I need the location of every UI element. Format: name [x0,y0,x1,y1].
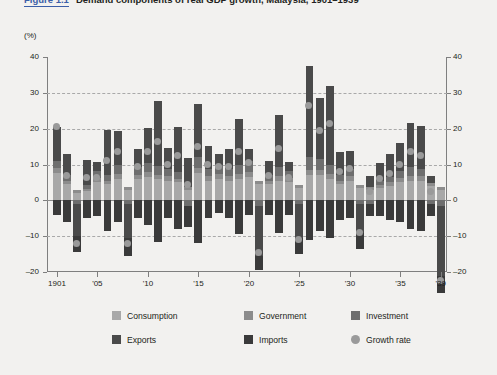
bar-group[interactable] [306,57,314,272]
bar-segment-imports [285,200,293,214]
bar-segment-imports [104,200,112,230]
legend-item[interactable]: Consumption [112,305,178,319]
bar-segment-government [356,185,364,188]
x-tick-label: '05 [82,279,112,288]
x-tick [198,272,199,277]
bar-group[interactable] [265,57,273,272]
bar-group[interactable] [144,57,152,272]
bar-group[interactable] [285,57,293,272]
bar-group[interactable] [366,57,374,272]
bar-segment-imports [346,200,354,218]
bar-segment-investment [164,169,172,176]
legend-item[interactable]: Investment [351,305,408,319]
bar-group[interactable] [53,57,61,272]
bar-group[interactable] [63,57,71,272]
bar-group[interactable] [93,57,101,272]
bar-segment-government [154,175,162,179]
bar-segment-investment [114,165,122,174]
bar-segment-exports [285,162,293,171]
bar-group[interactable] [154,57,162,272]
bar-group[interactable] [194,57,202,272]
bar-group[interactable] [326,57,334,272]
bar-group[interactable] [376,57,384,272]
bar-group[interactable] [386,57,394,272]
bar-segment-imports [275,200,283,232]
bar-segment-investment [225,169,233,176]
bar-segment-imports [326,200,334,238]
bar-group[interactable] [235,57,243,272]
bar-segment-exports [53,127,61,161]
bar-group[interactable] [417,57,425,272]
growth-rate-marker [285,174,292,181]
bar-group[interactable] [336,57,344,272]
bar-group[interactable] [174,57,182,272]
bar-segment-consumption [326,179,334,201]
bar-segment-exports [275,115,283,167]
bar-group[interactable] [356,57,364,272]
growth-rate-marker [417,152,424,159]
bar-segment-consumption [265,184,273,200]
bar-group[interactable] [407,57,415,272]
growth-rate-marker [83,174,90,181]
bar-group[interactable] [114,57,122,272]
bar-segment-exports [124,204,132,238]
bar-segment-government [306,170,314,175]
bar-segment-consumption [73,193,81,200]
chart-legend: ConsumptionGovernmentInvestmentExportsIm… [0,305,497,365]
x-tick-label: '20 [234,279,264,288]
y-tick-label-left: 40 [15,52,39,61]
bar-group[interactable] [104,57,112,272]
bar-group[interactable] [255,57,263,272]
bar-group[interactable] [275,57,283,272]
bar-segment-exports [144,128,152,164]
bar-group[interactable] [83,57,91,272]
bar-segment-investment [326,165,334,174]
bar-segment-exports [83,160,91,185]
x-tick-label: '39 [426,279,456,288]
bar-segment-imports [316,200,324,230]
bar-segment-investment [83,185,91,189]
legend-label: Consumption [127,311,178,321]
bar-segment-imports [164,200,172,218]
bar-segment-imports [386,200,394,220]
legend-item[interactable]: Government [244,305,306,319]
legend-item[interactable]: Exports [112,329,156,343]
y-tick [447,236,451,237]
bar-segment-imports [205,200,213,218]
bar-segment-exports [295,204,303,238]
bar-segment-consumption [134,179,142,201]
bar-segment-imports [184,206,192,228]
y-axis-unit-label: (%) [24,31,36,40]
growth-rate-marker [366,188,373,195]
bar-segment-exports [306,66,314,157]
bar-segment-imports [63,200,71,222]
y-tick [43,200,47,201]
bar-segment-exports [104,130,112,175]
bar-segment-consumption [306,175,314,200]
y-tick-label-right: 10 [453,160,477,169]
bar-segment-imports [245,200,253,214]
legend-item[interactable]: Imports [244,329,288,343]
bar-segment-imports [407,200,415,229]
bar-segment-government [316,170,324,175]
growth-rate-marker [346,165,353,172]
bar-segment-consumption [184,190,192,201]
bar-group[interactable] [427,57,435,272]
legend-swatch-square-icon [351,311,360,320]
growth-rate-marker [326,120,333,127]
bar-segment-government [255,181,263,185]
growth-rate-marker [184,181,191,188]
y-tick [447,57,451,58]
legend-item[interactable]: Growth rate [351,329,411,343]
bar-segment-investment [386,177,394,182]
bar-segment-government [194,168,202,173]
bar-segment-investment [275,167,283,176]
bar-segment-exports [427,176,435,183]
y-tick-label-left: 0 [15,195,39,204]
bar-group[interactable] [316,57,324,272]
bar-group[interactable] [437,57,445,272]
bar-segment-government [407,176,415,180]
bar-segment-government [164,176,172,180]
growth-rate-marker [73,240,80,247]
bar-group[interactable] [184,57,192,272]
